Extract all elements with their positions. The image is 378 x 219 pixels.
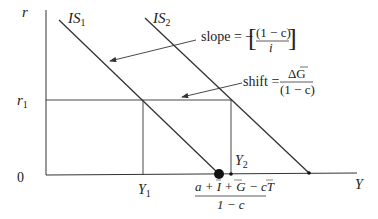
y1-label: Y1 (138, 182, 151, 199)
is-curve-diagram: r Y 0 r1 Y1 Y2 IS1 IS2 slope = − [ (1 − … (0, 0, 378, 219)
is2-label: IS2 (152, 10, 171, 28)
r1-label: r1 (17, 92, 28, 110)
intercept-numerator: a + I + G − cT (195, 179, 275, 194)
slope-denominator: i (269, 40, 273, 55)
slope-label: slope = − (201, 29, 253, 44)
origin-label: 0 (17, 170, 24, 185)
y-axis-label: r (22, 4, 28, 20)
y2-dot (229, 172, 233, 176)
is1-curve (59, 20, 219, 174)
shift-arrow (182, 83, 242, 97)
shift-label: shift = (243, 74, 279, 89)
is1-label: IS1 (67, 10, 86, 28)
intercept-denominator: 1 − c (217, 197, 245, 212)
shift-denominator: (1 − c) (280, 82, 315, 97)
slope-arrow (110, 40, 196, 61)
slope-numerator: (1 − c) (256, 25, 291, 40)
slope-bracket-right: ] (288, 23, 297, 52)
y2-label: Y2 (235, 153, 248, 170)
shift-numerator: ΔG (288, 66, 306, 81)
is2-intercept-dot (307, 171, 311, 175)
x-axis-label: Y (355, 177, 365, 192)
intercept-dot-large (214, 169, 224, 179)
